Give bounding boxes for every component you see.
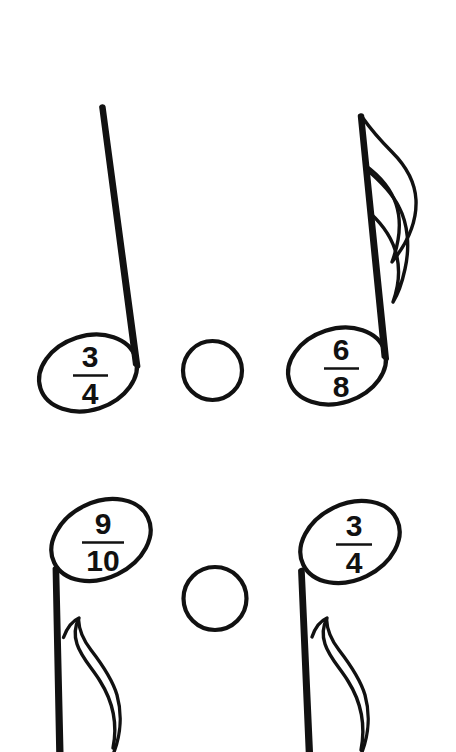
note-flag [312,618,363,750]
problem-2-group: 9 10 3 4 [38,483,414,752]
note-2-left[interactable]: 9 10 [38,483,165,752]
comparison-circle-2[interactable] [184,567,247,630]
note-1-right[interactable]: 6 8 [278,113,416,416]
fraction-3-4-b: 3 4 [336,509,372,579]
note-stem [99,104,140,368]
fraction-denominator: 4 [346,546,363,579]
fraction-9-10: 9 10 [82,507,124,577]
note-flag [64,618,115,748]
fraction-6-8: 6 8 [324,333,359,403]
fraction-denominator: 4 [82,377,99,410]
comparison-circle-1[interactable] [183,341,242,400]
note-stem [53,565,64,752]
fraction-denominator: 10 [86,544,119,577]
note-2-right[interactable]: 3 4 [287,485,414,752]
fraction-3-4: 3 4 [73,340,108,410]
note-stem [298,567,313,752]
worksheet-page: 3 4 6 8 [0,0,456,752]
problem-1-group: 3 4 6 8 [29,104,416,423]
fraction-denominator: 8 [333,370,350,403]
fraction-numerator: 3 [346,509,363,542]
fraction-numerator: 6 [333,333,350,366]
worksheet-canvas: 3 4 6 8 [0,0,456,752]
fraction-numerator: 3 [82,340,99,373]
note-head [287,485,414,599]
note-stem [358,113,389,361]
note-1-left[interactable]: 3 4 [29,104,147,423]
fraction-numerator: 9 [95,507,112,540]
